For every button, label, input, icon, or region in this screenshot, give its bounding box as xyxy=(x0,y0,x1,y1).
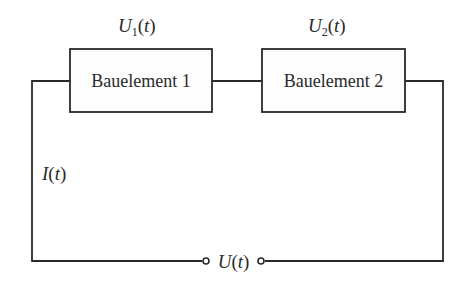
source-voltage-label: U(t) xyxy=(218,251,250,273)
current-label: I(t) xyxy=(41,163,66,185)
terminal-left xyxy=(203,258,209,264)
voltage-2-label: U2(t) xyxy=(308,15,346,39)
circuit-diagram: Bauelement 1 Bauelement 2 U1(t) U2(t) I(… xyxy=(0,0,468,282)
component-2-label: Bauelement 2 xyxy=(284,71,383,91)
voltage-1-label: U1(t) xyxy=(118,15,156,39)
component-1-label: Bauelement 1 xyxy=(91,71,190,91)
terminal-right xyxy=(258,258,264,264)
